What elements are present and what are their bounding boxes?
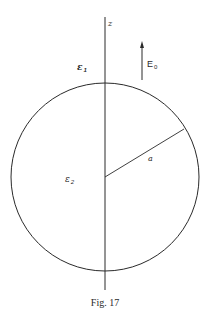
diagram-figure: z ε1 E0 a ε2 Fig. 17 [0,0,202,319]
field-symbol: E [147,59,153,69]
field-subscript: 0 [154,64,157,70]
field-e0-label: E0 [147,60,157,70]
diagram-canvas [0,0,202,319]
epsilon2-symbol: ε [65,174,70,184]
epsilon1-subscript: 1 [83,67,86,73]
radius-label: a [148,155,153,163]
epsilon1-symbol: ε [77,62,82,72]
epsilon2-subscript: 2 [71,179,74,185]
z-axis-label: z [108,20,112,28]
epsilon1-label: ε1 [77,63,87,73]
figure-caption: Fig. 17 [0,298,202,308]
epsilon2-label: ε2 [65,175,74,185]
radius-line [105,129,184,177]
field-arrow-head-icon [140,41,144,48]
